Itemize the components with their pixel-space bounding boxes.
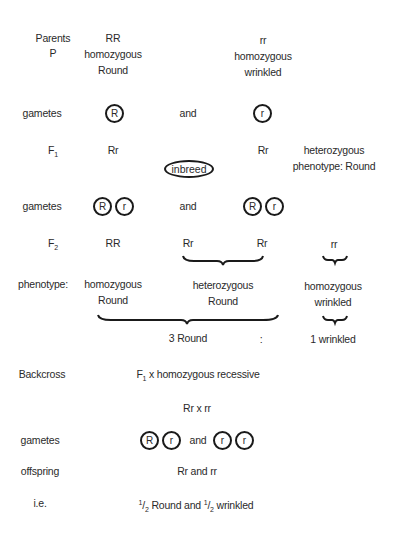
gametes-label: gametes bbox=[21, 432, 60, 448]
gamete-circle-r: r bbox=[253, 104, 272, 123]
and-label: and bbox=[180, 198, 197, 214]
backcross-cross: Rr x rr bbox=[183, 400, 211, 416]
f1-left-genotype: Rr bbox=[108, 142, 119, 158]
parents-label: Parents bbox=[36, 30, 71, 46]
parent-left-zygosity: homozygous bbox=[84, 46, 142, 62]
backcross-description: F1 x homozygous recessive bbox=[136, 366, 259, 387]
gamete-circle-r: r bbox=[162, 431, 181, 450]
ie-summary: 1/2 Round and 1/2 wrinkled bbox=[139, 495, 254, 518]
gamete-circle-R: R bbox=[243, 197, 262, 216]
ie-label: i.e. bbox=[33, 495, 46, 511]
f2-genotype-RR: RR bbox=[106, 235, 121, 251]
parent-left-genotype: RR bbox=[106, 30, 121, 46]
gamete-circle-r: r bbox=[115, 197, 134, 216]
f1-note-zygosity: heterozygous bbox=[304, 142, 365, 158]
f2-label: F2 bbox=[48, 235, 58, 256]
f2-genotype-rr: rr bbox=[331, 236, 338, 252]
parent-right-phenotype: wrinkled bbox=[245, 64, 282, 80]
and-label: and bbox=[180, 105, 197, 121]
ratio-round: 3 Round bbox=[169, 330, 207, 346]
brace-heterozygous bbox=[182, 254, 264, 266]
backcross-label: Backcross bbox=[19, 366, 66, 382]
brace-homozygous-recessive bbox=[322, 254, 348, 264]
f1-note-phenotype: phenotype: Round bbox=[293, 158, 376, 174]
parent-right-zygosity: homozygous bbox=[234, 48, 292, 64]
brace-round-total bbox=[97, 313, 279, 325]
phenotype-homozygous-round-line1: homozygous bbox=[84, 276, 142, 292]
gamete-circle-R: R bbox=[93, 197, 112, 216]
gamete-circle-r: r bbox=[213, 431, 232, 450]
phenotype-homozygous-wrinkled-line1: homozygous bbox=[304, 278, 362, 294]
gamete-circle-r: r bbox=[265, 197, 284, 216]
gamete-circle-r: r bbox=[235, 431, 254, 450]
f2-genotype-Rr: Rr bbox=[183, 235, 194, 251]
and-label: and bbox=[190, 432, 207, 448]
phenotype-homozygous-round-line2: Round bbox=[98, 292, 128, 308]
f2-genotype-Rr: Rr bbox=[257, 235, 268, 251]
parents-p-label: P bbox=[50, 45, 57, 61]
phenotype-heterozygous-round-line2: Round bbox=[208, 293, 238, 309]
parent-left-phenotype: Round bbox=[98, 62, 128, 78]
brace-wrinkled-total bbox=[322, 314, 348, 324]
gamete-circle-R: R bbox=[105, 104, 124, 123]
offspring-label: offspring bbox=[21, 463, 59, 479]
phenotype-label: phenotype: bbox=[18, 276, 68, 292]
f1-right-genotype: Rr bbox=[258, 142, 269, 158]
ratio-separator: : bbox=[260, 331, 263, 347]
gametes-label: gametes bbox=[23, 105, 62, 121]
ratio-wrinkled: 1 wrinkled bbox=[310, 331, 355, 347]
parent-right-genotype: rr bbox=[260, 32, 267, 48]
f1-label: F1 bbox=[48, 142, 58, 163]
offspring-value: Rr and rr bbox=[177, 463, 217, 479]
gametes-label: gametes bbox=[23, 198, 62, 214]
phenotype-homozygous-wrinkled-line2: wrinkled bbox=[315, 294, 352, 310]
gamete-circle-R: R bbox=[140, 431, 159, 450]
phenotype-heterozygous-round-line1: heterozygous bbox=[193, 277, 254, 293]
inbreed-oval: inbreed bbox=[164, 160, 214, 178]
